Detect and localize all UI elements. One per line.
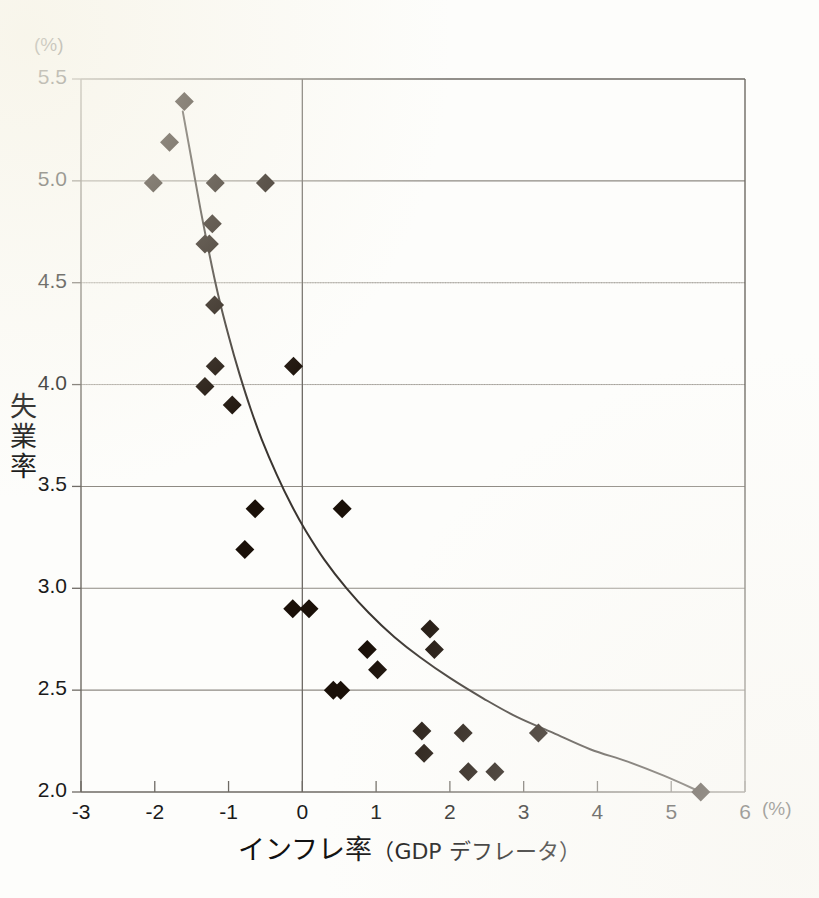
data-point xyxy=(412,721,431,740)
x-tick-label-1: 1 xyxy=(356,800,396,824)
data-point xyxy=(203,214,222,233)
data-point xyxy=(144,173,163,192)
x-tick-label-5: 5 xyxy=(651,800,691,824)
data-point xyxy=(223,395,242,414)
x-tick-label-3: 3 xyxy=(504,800,544,824)
data-point xyxy=(160,133,179,152)
x-axis-unit-label: (%) xyxy=(762,798,792,820)
x-axis-title-sub: （GDP デフレータ） xyxy=(372,839,580,864)
data-point xyxy=(415,744,434,763)
x-tick-label--1: -1 xyxy=(209,800,249,824)
y-tick-label-4.5: 4.5 xyxy=(15,269,67,293)
x-tick-label-0: 0 xyxy=(282,800,322,824)
data-point-markers xyxy=(144,92,710,802)
data-point xyxy=(206,357,225,376)
data-point xyxy=(175,92,194,111)
y-tick-label-5.5: 5.5 xyxy=(15,65,67,89)
x-tick-label--3: -3 xyxy=(61,800,101,824)
data-point xyxy=(283,599,302,618)
data-point xyxy=(256,173,275,192)
data-point xyxy=(485,762,504,781)
x-axis-title: インフレ率（GDP デフレータ） xyxy=(0,828,819,867)
x-axis-title-main: インフレ率 xyxy=(238,834,372,865)
x-tick-label-2: 2 xyxy=(430,800,470,824)
data-point xyxy=(246,499,265,518)
data-point xyxy=(459,762,478,781)
data-point xyxy=(358,640,377,659)
x-tick-label-6: 6 xyxy=(725,800,765,824)
y-tick-label-2.0: 2.0 xyxy=(15,778,67,802)
x-tick-label--2: -2 xyxy=(135,800,175,824)
data-point xyxy=(333,499,352,518)
data-point xyxy=(529,723,548,742)
y-tick-label-5.0: 5.0 xyxy=(15,167,67,191)
x-tick-label-4: 4 xyxy=(577,800,617,824)
data-point xyxy=(206,173,225,192)
data-point xyxy=(235,540,254,559)
scatter-plot-canvas xyxy=(0,0,819,898)
plot-frame xyxy=(81,79,745,792)
gridlines xyxy=(81,181,745,690)
data-point xyxy=(691,783,710,802)
data-point xyxy=(368,660,387,679)
data-point xyxy=(420,620,439,639)
data-point xyxy=(284,357,303,376)
data-point xyxy=(205,296,224,315)
data-point xyxy=(454,723,473,742)
data-point xyxy=(195,377,214,396)
chart-figure: (%) 失 業 率 2.02.53.03.54.04.55.05.5 -3-2-… xyxy=(0,0,819,898)
y-tick-label-3.5: 3.5 xyxy=(15,472,67,496)
data-point xyxy=(425,640,444,659)
tick-marks xyxy=(72,79,745,792)
y-tick-label-2.5: 2.5 xyxy=(15,676,67,700)
y-tick-label-3.0: 3.0 xyxy=(15,574,67,598)
y-tick-label-4.0: 4.0 xyxy=(15,371,67,395)
